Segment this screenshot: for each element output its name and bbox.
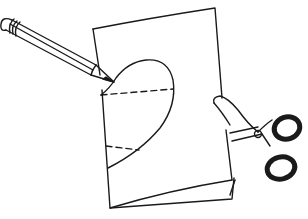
scissors-finger-rings [265, 113, 303, 182]
illustration-canvas [0, 0, 308, 219]
craft-illustration [0, 0, 308, 219]
half-heart-outline [101, 60, 174, 168]
folded-paper-front-sheet [93, 8, 235, 208]
dashed-fold-lines [101, 89, 173, 150]
scissors-icon [214, 96, 272, 146]
